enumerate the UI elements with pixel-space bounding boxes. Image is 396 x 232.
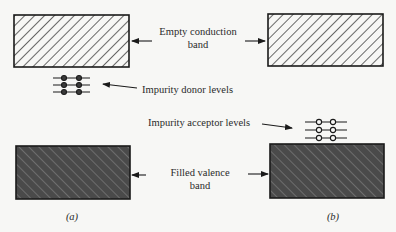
- donor-levels: [53, 76, 90, 95]
- panel-b: (b): [268, 14, 384, 223]
- conduction-label-line2: band: [188, 39, 209, 50]
- donor-electron-dot: [77, 83, 82, 88]
- conduction-band-a: [14, 15, 129, 67]
- acceptor-hole-dot: [316, 135, 321, 140]
- acceptor-hole-dot: [330, 135, 335, 140]
- arrow-left-icon: [103, 84, 137, 88]
- donor-electron-dot: [77, 90, 82, 95]
- labels: Empty conduction band Impurity donor lev…: [103, 26, 292, 191]
- donor-label: Impurity donor levels: [142, 84, 233, 95]
- acceptor-label: Impurity acceptor levels: [148, 117, 250, 128]
- acceptor-hole-dot: [330, 127, 335, 132]
- acceptor-hole-dot: [316, 127, 321, 132]
- acceptor-hole-dot: [330, 119, 335, 124]
- arrow-right-icon: [262, 124, 292, 128]
- valence-band-a: [16, 146, 130, 199]
- acceptor-hole-dot: [316, 119, 321, 124]
- acceptor-levels: [305, 119, 347, 140]
- donor-electron-dot: [62, 76, 67, 81]
- caption-b: (b): [327, 211, 340, 223]
- donor-electron-dot: [62, 83, 67, 88]
- band-diagram: (a) (b) Empty conduction band Impurity d…: [0, 0, 396, 232]
- valence-label-line1: Filled valence: [170, 167, 230, 178]
- panel-a: (a): [14, 15, 130, 223]
- valence-label-line2: band: [190, 180, 211, 191]
- valence-band-b: [270, 144, 384, 198]
- caption-a: (a): [66, 211, 79, 223]
- donor-electron-dot: [77, 76, 82, 81]
- conduction-label-line1: Empty conduction: [159, 26, 237, 37]
- donor-electron-dot: [62, 90, 67, 95]
- conduction-band-b: [268, 14, 383, 66]
